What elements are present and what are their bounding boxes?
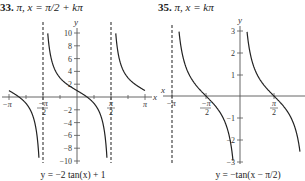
tick-neg-half-pi: −π2 [37, 99, 49, 117]
svg-text:1: 1 [231, 71, 235, 80]
svg-text:10: 10 [64, 29, 72, 38]
svg-text:−2: −2 [63, 106, 72, 115]
svg-text:π: π [109, 99, 114, 108]
svg-text:π: π [143, 100, 148, 109]
svg-text:3: 3 [231, 27, 235, 36]
tick-neg-half-pi: −π2 [200, 99, 212, 117]
svg-text:2: 2 [272, 108, 276, 117]
svg-text:−8: −8 [63, 144, 72, 153]
svg-text:4: 4 [68, 67, 72, 76]
svg-text:2: 2 [205, 108, 209, 117]
svg-text:−6: −6 [63, 131, 72, 140]
x-axis-label: x [152, 92, 157, 102]
y-axis-label: y [237, 15, 242, 25]
x-tick-labels: −π −π2 π2 [166, 99, 278, 117]
y-tick-labels: 10 8 6 4 2 −2 −4 −6 −8 −10 [59, 29, 72, 166]
equation-label: y = −2 tan(x) + 1 [41, 170, 106, 181]
svg-text:2: 2 [231, 49, 235, 58]
svg-text:−10: −10 [59, 157, 72, 166]
svg-text:6: 6 [68, 55, 72, 64]
svg-text:2: 2 [109, 108, 113, 117]
svg-text:2: 2 [42, 108, 46, 117]
svg-text:−π: −π [38, 99, 48, 108]
equation-label: y = −tan(x − π/2) [215, 170, 280, 181]
x-axis-label: x [160, 85, 165, 95]
graph-35: 3 2 1 −1 −2 −3 −π −π2 π2 y x y = −tan(x … [160, 15, 305, 181]
svg-text:π: π [272, 99, 277, 108]
svg-text:−π: −π [2, 100, 12, 109]
y-axis-label: y [73, 17, 78, 27]
tick-half-pi: π2 [107, 99, 115, 117]
svg-text:−3: −3 [226, 158, 235, 167]
svg-text:8: 8 [68, 42, 72, 51]
svg-text:−π: −π [166, 99, 176, 108]
svg-text:−4: −4 [63, 119, 72, 128]
graph-33: 10 8 6 4 2 −2 −4 −6 −8 −10 −π −π2 π2 π y… [2, 17, 157, 181]
tick-half-pi: π2 [270, 99, 278, 117]
graphs-canvas: 10 8 6 4 2 −2 −4 −6 −8 −10 −π −π2 π2 π y… [0, 0, 305, 181]
svg-text:−1: −1 [226, 114, 235, 123]
